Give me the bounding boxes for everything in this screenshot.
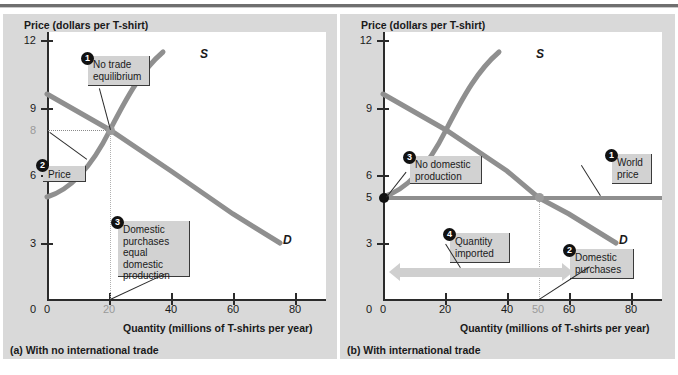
callout-b-1: World price — [612, 154, 652, 184]
quantity-imported-arrow-bar — [400, 268, 562, 277]
callout-badge-b-1: 1 — [605, 149, 618, 162]
curves-b — [0, 0, 678, 375]
demand-curve-label-b: D — [619, 233, 628, 247]
domestic-purchases-point-b — [535, 193, 544, 202]
callout-badge-b-2: 2 — [563, 244, 576, 257]
callout-badge-b-3: 3 — [403, 151, 416, 164]
callout-badge-a-3: 3 — [111, 216, 124, 229]
callout-b-2: Domestic purchases — [570, 249, 634, 279]
callout-badge-a-2: 2 — [36, 159, 49, 172]
figure-root: Price (dollars per T-shirt) Quantity (mi… — [0, 0, 678, 375]
callout-badge-b-4: 4 — [443, 228, 456, 241]
supply-curve-label-b: S — [536, 47, 544, 61]
callout-badge-a-1: 1 — [81, 52, 94, 65]
callout-b-3: No domestic production — [410, 156, 482, 184]
quantity-imported-arrow-left — [389, 263, 400, 281]
callout-b-4: Quantity imported — [450, 233, 510, 263]
